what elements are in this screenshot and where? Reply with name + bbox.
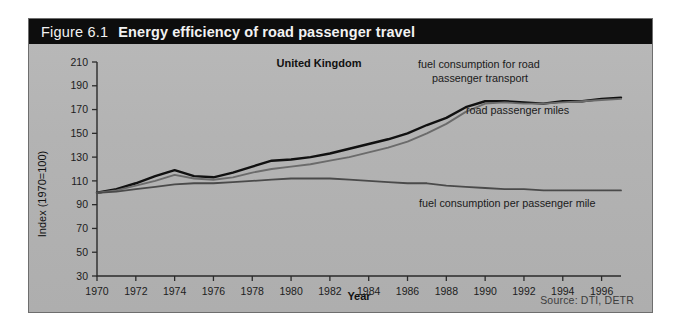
figure-number: Figure 6.1 <box>41 24 108 40</box>
series-line <box>97 179 621 193</box>
y-tick-label: 90 <box>76 198 88 210</box>
axis-lines <box>97 62 621 276</box>
figure-title: Energy efficiency of road passenger trav… <box>118 24 415 40</box>
y-tick-label: 70 <box>76 222 88 234</box>
x-axis-title: Year <box>347 290 371 302</box>
annotation-fuel-per-mile: fuel consumption per passenger mile <box>419 197 595 209</box>
chart-area: 30507090110130150170190210 1970197219741… <box>29 44 652 314</box>
y-tick-label: 130 <box>70 151 88 163</box>
x-tick-label: 1992 <box>512 285 536 297</box>
y-tick-label: 150 <box>70 127 88 139</box>
y-tick-label: 30 <box>76 270 88 282</box>
y-tick-label: 170 <box>70 103 88 115</box>
region-label: United Kingdom <box>277 57 362 69</box>
x-tick-label: 1974 <box>163 285 187 297</box>
x-tick-label: 1972 <box>124 285 148 297</box>
x-tick-label: 1970 <box>85 285 109 297</box>
x-tick-label: 1982 <box>318 285 342 297</box>
x-tick-label: 1980 <box>279 285 303 297</box>
y-axis-title: Index (1970=100) <box>36 151 48 238</box>
y-tick-label: 50 <box>76 246 88 258</box>
figure-panel: Figure 6.1 Energy efficiency of road pas… <box>28 18 653 313</box>
annotation-fuel-transport-line2: passenger transport <box>432 72 528 84</box>
y-tick-label: 190 <box>70 79 88 91</box>
y-axis-ticks: 30507090110130150170190210 <box>70 56 97 282</box>
annotation-passenger-miles: road passenger miles <box>466 104 570 116</box>
annotation-fuel-transport-line1: fuel consumption for road <box>418 58 540 70</box>
x-tick-label: 1986 <box>396 285 420 297</box>
figure-title-bar: Figure 6.1 Energy efficiency of road pas… <box>29 19 652 44</box>
x-tick-label: 1978 <box>241 285 265 297</box>
source-note: Source: DTI, DETR <box>540 294 634 306</box>
x-tick-label: 1990 <box>473 285 497 297</box>
x-tick-label: 1976 <box>202 285 226 297</box>
line-chart: 30507090110130150170190210 1970197219741… <box>29 44 654 314</box>
y-tick-label: 110 <box>71 175 88 187</box>
x-tick-label: 1988 <box>435 285 459 297</box>
y-tick-label: 210 <box>70 56 88 68</box>
